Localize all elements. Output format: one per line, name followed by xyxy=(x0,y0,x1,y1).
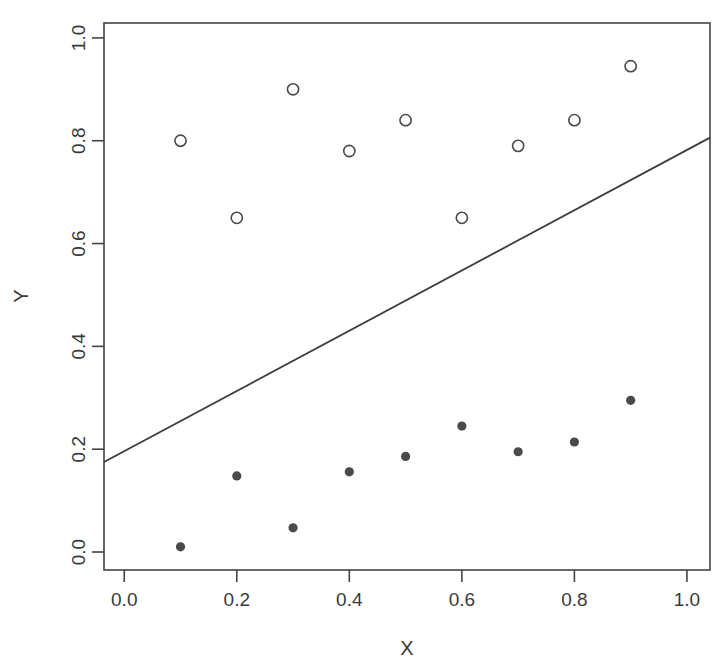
x-tick-label: 1.0 xyxy=(674,589,700,610)
y-tick-label: 0.4 xyxy=(68,333,89,360)
y-tick-label: 1.0 xyxy=(68,25,89,51)
y-axis-title: Y xyxy=(10,289,32,302)
x-tick-label: 0.6 xyxy=(449,589,475,610)
data-point-filled xyxy=(345,467,354,476)
x-tick-label: 0.2 xyxy=(224,589,250,610)
data-point-filled xyxy=(626,396,635,405)
x-tick-label: 0.8 xyxy=(561,589,587,610)
data-point-filled xyxy=(570,437,579,446)
data-point-filled xyxy=(514,447,523,456)
chart-canvas: 0.00.20.40.60.81.0 0.00.20.40.60.81.0 X … xyxy=(0,0,727,668)
x-tick-label: 0.0 xyxy=(111,589,137,610)
data-point-filled xyxy=(232,471,241,480)
data-point-filled xyxy=(176,542,185,551)
data-point-filled xyxy=(457,421,466,430)
x-tick-label: 0.4 xyxy=(336,589,363,610)
y-tick-label: 0.6 xyxy=(68,230,89,256)
y-tick-label: 0.0 xyxy=(68,539,89,565)
data-point-filled xyxy=(401,452,410,461)
plot-background xyxy=(0,0,727,668)
scatter-plot-figure: 0.00.20.40.60.81.0 0.00.20.40.60.81.0 X … xyxy=(0,0,727,668)
y-tick-label: 0.2 xyxy=(68,436,89,462)
x-axis-title: X xyxy=(400,637,413,659)
data-point-filled xyxy=(288,523,297,532)
y-tick-label: 0.8 xyxy=(68,128,89,154)
